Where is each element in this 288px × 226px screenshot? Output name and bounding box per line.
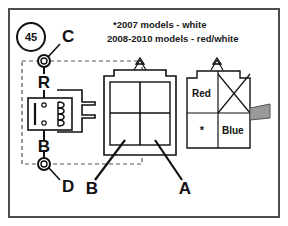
- relay-contact-point-bottom: [42, 121, 46, 125]
- connector-right-label-blue: Blue: [222, 125, 244, 136]
- callout-label-c: C: [62, 27, 74, 46]
- relay-contact-point-top: [42, 103, 46, 107]
- terminal-d-inner-ring: [41, 161, 47, 167]
- diagram-page: 45 *2007 models - white 2008-2010 models…: [0, 0, 288, 226]
- connector-right-label-red: Red: [192, 88, 211, 99]
- wiring-diagram-canvas: 45 *2007 models - white 2008-2010 models…: [0, 0, 288, 226]
- connector-center: [104, 58, 176, 155]
- note-line-1: *2007 models - white: [113, 19, 206, 30]
- connector-right-label-asterisk: *: [200, 124, 205, 136]
- relay-pin-label-b: B: [38, 137, 50, 156]
- callout-label-b: B: [86, 179, 98, 198]
- badge-number: 45: [25, 31, 37, 43]
- terminal-c-inner-ring: [41, 58, 47, 64]
- callout-label-d: D: [62, 177, 74, 196]
- note-line-2: 2008-2010 models - red/white: [107, 33, 238, 44]
- relay-pin-label-r: R: [38, 73, 50, 92]
- callout-label-a: A: [179, 179, 191, 198]
- figure-badge: 45: [17, 23, 45, 51]
